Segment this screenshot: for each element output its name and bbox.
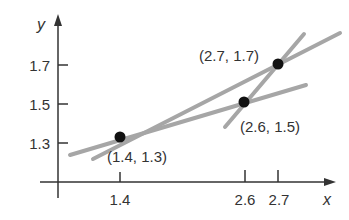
point-label: (2.6, 1.5) (240, 118, 300, 135)
x-axis-arrow-icon (324, 178, 336, 186)
point-label: (2.7, 1.7) (199, 47, 259, 64)
x-axis-label: x (322, 191, 332, 208)
axes (40, 22, 328, 198)
y-ticks (58, 65, 68, 143)
y-axis-arrow-icon (54, 14, 62, 26)
y-tick-label: 1.3 (29, 135, 50, 152)
chart: 1.7 1.5 1.3 1.4 2.6 2.7 y x (1.4, 1.3) (… (0, 0, 349, 220)
x-tick-label: 2.6 (235, 191, 256, 208)
y-tick-label: 1.5 (29, 96, 50, 113)
x-ticks (120, 170, 278, 182)
point-2.7-1.7 (273, 59, 284, 70)
x-tick-label: 1.4 (110, 191, 131, 208)
point-label: (1.4, 1.3) (107, 148, 167, 165)
x-tick-label: 2.7 (269, 191, 290, 208)
y-tick-label: 1.7 (29, 57, 50, 74)
point-2.6-1.5 (239, 97, 250, 108)
y-axis-label: y (36, 16, 46, 33)
point-1.4-1.3 (115, 132, 126, 143)
